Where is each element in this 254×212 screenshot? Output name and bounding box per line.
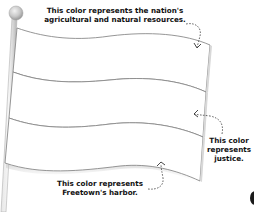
annotation-right-line3: justice. [204,154,254,163]
pole-finial-icon [9,6,23,20]
annotation-right-line1: This color [204,136,254,145]
flag-body [5,28,212,184]
annotation-right-label: This color represents justice. [204,136,254,163]
annotation-bottom-line1: This color represents [54,179,146,188]
annotation-right-line2: represents [204,145,254,154]
annotation-bottom-line2: Freetown's harbor. [54,188,146,197]
corner-page-element [250,191,254,205]
annotation-top-line2: agricultural and natural resources. [44,15,186,24]
annotation-bottom-label: This color represents Freetown's harbor. [54,179,146,197]
annotation-top-label: This color represents the nation's agric… [44,6,186,24]
flag-diagram: This color represents the nation's agric… [0,0,254,212]
annotation-top-line1: This color represents the nation's [44,6,186,15]
